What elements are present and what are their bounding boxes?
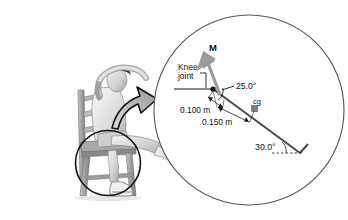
muscle-force-label: M	[209, 42, 217, 53]
magnified-knee-diagram: M Knee joint 25.0° 0.100 m 0.150 m cg 30…	[154, 15, 344, 205]
distance-long-label: 0.150 m	[202, 117, 232, 127]
center-of-gravity-label: cg	[253, 97, 261, 106]
knee-joint-figure: M Knee joint 25.0° 0.100 m 0.150 m cg 30…	[0, 0, 348, 220]
distance-short-label: 0.100 m	[180, 105, 210, 115]
person-support-shin	[108, 150, 119, 182]
knee-joint-dot	[210, 86, 215, 91]
leg-angle-label: 30.0°	[255, 142, 276, 152]
center-of-gravity-marker	[252, 106, 258, 112]
knee-joint-label-line2: joint	[177, 71, 194, 81]
muscle-angle-label: 25.0°	[236, 81, 256, 91]
